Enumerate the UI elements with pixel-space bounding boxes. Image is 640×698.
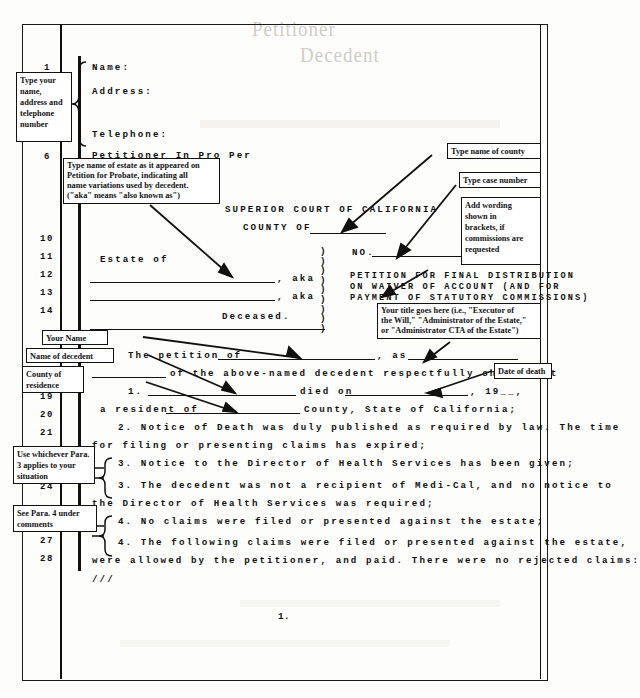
date-of-death-blank[interactable] [345,395,468,396]
annotation-line: commissions are [465,233,537,244]
annotation-line: shown in [465,211,537,222]
annotation-line: or "Administrator CTA of the Estate") [381,326,537,336]
line-number-21: 21 [40,428,54,438]
annotation-type-your-name-address[interactable]: Type your name, address and telephone nu… [16,72,72,142]
caption-address-label: Address: [92,86,153,97]
petition-title-line-3: PAYMENT OF STATUTORY COMMISSIONS) [350,293,589,303]
paragraph-3b-text: 3. The decedent was not a recipient of M… [118,480,613,491]
annotation-name-of-decedent[interactable]: Name of decedent [26,348,114,363]
annotation-line: Type name of estate as it appeared on [67,161,216,171]
annotation-your-name[interactable]: Your Name [42,330,108,345]
paragraph-4b-text: 4. The following claims were filed or pr… [118,537,628,548]
estate-of-label: Estate of [100,254,169,265]
paragraph-4a-text: 4. No claims were filed or presented aga… [118,516,544,527]
annotation-line: Type your [20,75,68,86]
petitioner-title-blank[interactable] [408,359,518,360]
annotation-type-name-of-county[interactable]: Type name of county [447,143,541,159]
annotation-line: See Para. 4 under [17,508,93,519]
paragraph-3a-text: 3. Notice to the Director of Health Serv… [118,458,575,469]
line-number-6: 6 [44,152,51,162]
annotation-line: Add wording [465,200,537,211]
annotation-line: Date of death [498,366,548,377]
caption-paren-column: ) ) ) ) ) ) ) ) ) [320,247,326,333]
line-number-20: 20 [40,410,54,420]
annotation-line: residence [26,380,80,391]
petitioner-name-blank[interactable] [218,359,375,360]
paragraph-4b-continued: were allowed by the petitioner, and paid… [92,555,640,566]
annotation-type-case-number[interactable]: Type case number [459,172,541,188]
annotation-line: County of [26,369,80,380]
line-number-12: 12 [40,270,54,280]
caption-bottom-rule [90,329,325,330]
annotation-line: address and [20,97,68,108]
line-number-19: 19 [40,392,54,402]
estate-name-blank-2[interactable] [90,300,275,301]
court-title: SUPERIOR COURT OF CALIFORNIA [225,204,438,215]
annotation-line: Type case number [463,175,537,186]
decedent-name-blank[interactable] [148,395,296,396]
annotation-line: name variations used by decedent. [67,181,216,191]
line-number-28: 28 [40,554,54,564]
petition-as-text: , as [377,350,407,361]
annotation-line: requested [465,244,537,255]
annotation-your-title-goes-here[interactable]: Your title goes here (i.e., "Executor of… [377,303,541,339]
annotation-line: Petition for Probate, indicating all [67,171,216,181]
deceased-label: Deceased. [222,311,291,322]
paragraph-1-year: , 19__, [470,386,523,397]
pleading-rule-right [540,24,541,679]
county-blank[interactable] [310,233,386,234]
aka-label-1: , aka [277,273,315,284]
annotation-line: telephone [20,108,68,119]
petition-title-line-2: ON WAIVER OF ACCOUNT (AND FOR [350,282,560,292]
line-number-11: 11 [40,252,54,262]
slash-filler: /// [92,574,115,585]
annotation-line: Your Name [46,333,104,344]
annotation-line: comments [17,519,93,530]
annotation-line: Your title goes here (i.e., "Executor of [381,306,537,316]
annotation-type-name-of-estate[interactable]: Type name of estate as it appeared on Pe… [63,158,220,204]
paragraph-2-text: 2. Notice of Death was duly published as… [118,422,620,433]
line-number-14: 14 [40,306,54,316]
caption-telephone-label: Telephone: [92,129,168,140]
annotation-line: the Will," "Administrator of the Estate,… [381,316,537,326]
county-residence-blank[interactable] [166,413,300,414]
annotation-line: Name of decedent [30,351,110,362]
line-number-13: 13 [40,288,54,298]
annotation-use-whichever-para-3[interactable]: Use whichever Para. 3 applies to your si… [13,446,95,484]
paragraph-1-county-state: County, State of California; [304,404,517,415]
petition-title-line-1: PETITION FOR FINAL DISTRIBUTION [350,271,575,281]
annotation-line: ("aka" means "also known as") [67,191,216,201]
annotation-see-para-4-under-comments[interactable]: See Para. 4 under comments [13,505,97,532]
annotation-line: name, [20,86,68,97]
estate-name-blank-1[interactable] [90,282,275,283]
annotation-add-wording-brackets[interactable]: Add wording shown in brackets, if commis… [461,197,541,265]
paragraph-1-number: 1. [128,386,143,397]
line-number-10: 10 [40,234,54,244]
annotation-date-of-death[interactable]: Date of death [494,363,552,379]
annotation-line: brackets, if [465,222,537,233]
county-of-label: COUNTY OF [243,222,312,233]
annotation-line: number [20,119,68,130]
line-number-27: 27 [40,536,54,546]
annotation-line: situation [17,471,91,482]
annotation-county-of-residence[interactable]: County of residence [22,366,84,393]
annotation-line: Type name of county [451,146,537,157]
annotation-line: Use whichever Para. [17,449,91,460]
paragraph-3b-continued: the Director of Health Services was requ… [92,498,435,509]
page-number: 1. [278,611,290,622]
paragraph-2-continued: for filing or presenting claims has expi… [92,440,427,451]
annotation-line: 3 applies to your [17,460,91,471]
caption-name-label: Name: [92,62,130,73]
pleading-rule-inner [78,56,81,571]
aka-label-2: , aka [277,291,315,302]
petition-title-wrap-blank[interactable] [92,377,166,378]
